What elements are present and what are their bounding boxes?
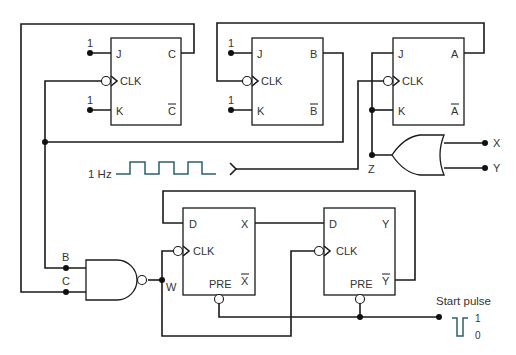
clock-label: 1 Hz [88,168,112,180]
pre-inversion-bubble [215,295,224,304]
pulse-high-label: 1 [475,313,481,324]
c-input-label: C [62,275,70,287]
jk-flip-flop-c: J CLK K C C 1 1 [87,37,181,125]
pin-q: B [310,48,317,60]
start-pulse-label: Start pulse [436,295,491,307]
nand-gate: B C W [42,139,177,300]
pin-qbar: C [168,105,176,117]
y-output-label: Y [493,162,501,174]
pin-clk: CLK [402,75,424,87]
wire-preset [219,302,439,317]
clk-inversion-bubble [384,77,393,86]
pin-j: J [398,48,404,60]
w-output-label: W [166,281,177,293]
pin-qbar: Y [382,275,390,287]
pin-d: D [329,218,337,230]
pin-j: J [257,48,263,60]
pin-pre: PRE [350,278,373,290]
x-output-label: X [493,137,501,149]
d-flip-flop-x: D CLK X X PRE [174,208,256,304]
pin-k: K [398,105,406,117]
wire-jk-a-to-z [372,53,393,155]
jk-flip-flop-a: J CLK K A A [369,38,464,125]
clk-inversion-bubble [243,77,252,86]
pin-pre: PRE [209,278,232,290]
pin-q: Y [382,218,390,230]
pin-qbar: A [451,105,459,117]
pin-clk: CLK [336,245,358,257]
pin-q: X [241,218,249,230]
connector-arrow-icon [230,163,236,175]
pin-k: K [116,105,124,117]
b-input-label: B [62,251,69,263]
pin-clk: CLK [120,75,142,87]
pulse-low-label: 0 [475,330,481,341]
pin-q: A [451,48,459,60]
pin-j: J [116,48,122,60]
j-level: 1 [87,37,93,49]
pin-clk: CLK [261,75,283,87]
nand-inversion-bubble [138,276,147,285]
jk-flip-flop-b: J CLK K B B 1 1 [228,37,323,125]
j-level: 1 [228,37,234,49]
k-level: 1 [87,94,93,106]
negative-pulse-icon [452,318,468,336]
pin-d: D [189,218,197,230]
pre-inversion-bubble [356,295,365,304]
clk-inversion-bubble [174,247,183,256]
pin-qbar: B [310,105,317,117]
square-wave-icon [116,162,216,174]
pin-clk: CLK [193,245,215,257]
z-label: Z [368,163,375,175]
clk-inversion-bubble [315,247,324,256]
pin-qbar: X [241,275,249,287]
k-level: 1 [228,94,234,106]
circuit-schematic: J CLK K C C 1 1 J CLK K B B 1 1 J CLK K … [0,0,516,355]
start-pulse: Start pulse 1 0 [436,295,491,341]
clk-inversion-bubble [102,77,111,86]
pin-k: K [257,105,265,117]
d-flip-flop-y: D CLK Y Y PRE [315,208,396,320]
pin-q: C [168,48,176,60]
clock-source: 1 Hz [88,162,236,180]
